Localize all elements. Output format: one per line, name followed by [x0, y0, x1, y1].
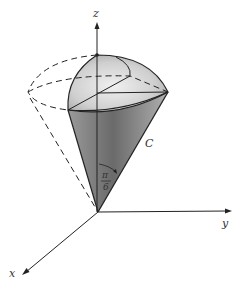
y-axis — [98, 211, 228, 212]
y-axis-label: y — [221, 217, 229, 230]
x-axis-arrow-icon — [22, 268, 30, 275]
ice-cream-cone-diagram: z y x C π 6 — [0, 0, 247, 288]
angle-denominator: 6 — [103, 182, 109, 192]
apex-point — [95, 53, 99, 57]
x-axis-label: x — [9, 267, 16, 280]
curve-c-label: C — [145, 137, 154, 150]
angle-numerator: π — [101, 170, 109, 180]
z-axis-arrow-icon — [95, 22, 100, 29]
y-axis-arrow-icon — [225, 209, 232, 214]
z-axis-label: z — [92, 7, 99, 20]
x-axis — [26, 212, 98, 272]
